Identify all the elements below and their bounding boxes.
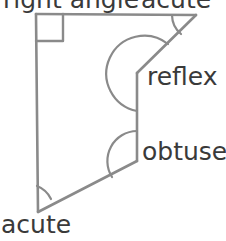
angle-polygon-figure [0, 0, 226, 241]
diagram-canvas: right angle acute reflex obtuse acute [0, 0, 226, 241]
obtuse-angle-arc-icon [107, 131, 137, 177]
label-acute-bottom: acute [1, 212, 71, 237]
label-acute-top: acute [141, 0, 211, 12]
label-reflex: reflex [147, 64, 218, 89]
label-obtuse: obtuse [142, 139, 226, 164]
right-angle-marker-icon [36, 14, 63, 41]
label-right-angle: right angle [3, 0, 139, 12]
edge-lower-right [38, 161, 137, 212]
edge-left [36, 14, 38, 212]
